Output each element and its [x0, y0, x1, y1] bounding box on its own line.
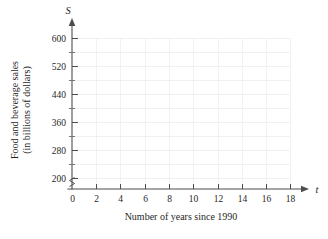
x-tick-label-12: 12 — [214, 194, 224, 204]
y-tick-label-280: 280 — [52, 146, 67, 156]
x-tick-label-14: 14 — [238, 194, 248, 204]
x-axis-title: Number of years since 1990 — [125, 211, 238, 222]
y-axis-title: Food and beverage sales (in billions of … — [9, 61, 33, 159]
x-tick-label-16: 16 — [262, 194, 272, 204]
x-tick-label-4: 4 — [118, 194, 123, 204]
chart-figure: 200 280 360 440 520 600 0 2 4 6 8 10 12 … — [0, 0, 328, 239]
x-tick-label-6: 6 — [143, 194, 148, 204]
x-tick-label-0: 0 — [70, 194, 75, 204]
chart-background — [0, 0, 328, 239]
x-tick-label-8: 8 — [167, 194, 172, 204]
y-tick-label-520: 520 — [52, 62, 67, 72]
y-tick-label-440: 440 — [52, 90, 67, 100]
coordinate-plane: 200 280 360 440 520 600 0 2 4 6 8 10 12 … — [0, 0, 328, 239]
y-tick-label-200: 200 — [52, 174, 67, 184]
x-tick-label-18: 18 — [286, 194, 296, 204]
y-axis-title-line1: Food and beverage sales — [9, 61, 20, 159]
y-axis-title-line2: (in billions of dollars) — [21, 66, 33, 154]
y-axis-variable-label: S — [65, 5, 71, 16]
y-tick-label-600: 600 — [52, 34, 67, 44]
y-tick-label-360: 360 — [52, 118, 67, 128]
x-tick-label-2: 2 — [94, 194, 99, 204]
x-tick-label-10: 10 — [189, 194, 199, 204]
